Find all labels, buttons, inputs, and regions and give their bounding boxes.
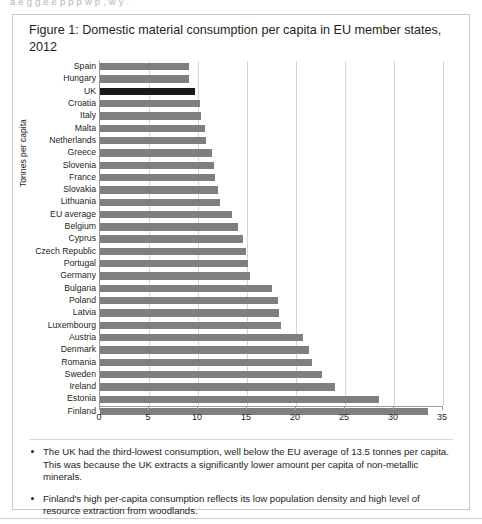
category-label: Latvia [73, 306, 96, 318]
bar-row: France [100, 172, 442, 184]
x-tick-label: 20 [290, 412, 300, 422]
category-label: Austria [69, 331, 96, 343]
category-label: Romania [61, 356, 96, 368]
bar [100, 112, 201, 119]
category-label: Croatia [68, 97, 96, 109]
bar [100, 334, 303, 341]
category-label: Malta [75, 122, 96, 134]
category-label: Bulgaria [64, 282, 96, 294]
category-label: Slovakia [63, 183, 96, 195]
cut-off-text-line: a e g g e e p p p w p , w y . [10, 0, 480, 10]
bar [100, 285, 272, 292]
bar [100, 235, 243, 242]
bar [100, 359, 312, 366]
bar-row: Malta [100, 123, 442, 135]
category-label: Portugal [64, 257, 96, 269]
bar-row: Romania [100, 357, 442, 369]
category-label: Cyprus [68, 232, 96, 244]
bar [100, 100, 200, 107]
x-tick-mark [197, 406, 198, 410]
bar [100, 346, 309, 353]
category-label: Czech Republic [35, 245, 96, 257]
x-tick-mark [442, 406, 443, 410]
bar [100, 174, 215, 181]
figure-title: Figure 1: Domestic material consumption … [29, 22, 453, 55]
bar [100, 223, 238, 230]
bar-row: Ireland [100, 381, 442, 393]
bar-row: Cyprus [100, 233, 442, 245]
bar-row: Latvia [100, 307, 442, 319]
bar [100, 162, 214, 169]
bar-row: Lithuania [100, 196, 442, 208]
category-label: Germany [60, 269, 96, 281]
bar [100, 211, 232, 218]
x-tick-label: 5 [145, 412, 150, 422]
category-label: Finland [68, 405, 97, 417]
category-label: UK [84, 85, 96, 97]
y-axis-title: Tonnes per capita [18, 119, 28, 187]
plot-area: SpainHungaryUKCroatiaItalyMaltaNetherlan… [99, 61, 442, 406]
x-tick-label: 0 [96, 412, 101, 422]
category-label: Denmark [61, 343, 96, 355]
x-tick-label: 30 [388, 412, 398, 422]
note-text: Finland's high per-capita consumption re… [43, 493, 420, 517]
bar-row: Sweden [100, 369, 442, 381]
bar [100, 272, 250, 279]
bar [100, 186, 218, 193]
bar [100, 88, 195, 95]
category-label: Ireland [69, 380, 96, 392]
bar-row: Hungary [100, 73, 442, 85]
bar [100, 199, 220, 206]
bar-row: Slovakia [100, 184, 442, 196]
bullet-icon [31, 497, 34, 500]
category-label: Greece [68, 146, 97, 158]
bar-row: Czech Republic [100, 246, 442, 258]
x-tick-mark [295, 406, 296, 410]
gridline [443, 61, 444, 406]
bar [100, 396, 379, 403]
bar-row: Spain [100, 61, 442, 73]
x-tick-label: 15 [241, 412, 251, 422]
bar-chart: Tonnes per capita SpainHungaryUKCroatiaI… [13, 59, 471, 433]
x-tick-label: 25 [339, 412, 349, 422]
bar-row: UK [100, 86, 442, 98]
bar-row: Greece [100, 147, 442, 159]
x-axis-line [99, 406, 442, 407]
x-tick-mark [148, 406, 149, 410]
figure-container: Figure 1: Domestic material consumption … [12, 14, 470, 510]
bar [100, 75, 189, 82]
bar-row: Belgium [100, 221, 442, 233]
bar [100, 248, 246, 255]
x-tick-mark [246, 406, 247, 410]
bar-row: Poland [100, 295, 442, 307]
bar-row: EU average [100, 209, 442, 221]
category-label: Slovenia [63, 159, 96, 171]
bar-row: Portugal [100, 258, 442, 270]
category-label: Poland [69, 294, 96, 306]
note-item: The UK had the third-lowest consumption,… [29, 446, 453, 484]
x-tick-mark [99, 406, 100, 410]
category-label: Netherlands [49, 134, 96, 146]
bar-row: Austria [100, 332, 442, 344]
category-label: Italy [80, 109, 96, 121]
category-label: France [69, 171, 96, 183]
bottom-rule [0, 518, 482, 519]
bar [100, 309, 279, 316]
bullet-icon [31, 450, 34, 453]
category-label: Belgium [65, 220, 96, 232]
category-label: Luxembourg [48, 319, 96, 331]
category-label: Hungary [63, 72, 96, 84]
bar [100, 260, 248, 267]
category-label: Sweden [65, 368, 96, 380]
bar [100, 137, 206, 144]
bar-row: Slovenia [100, 160, 442, 172]
bar-row: Italy [100, 110, 442, 122]
category-label: EU average [50, 208, 96, 220]
bar-row: Denmark [100, 344, 442, 356]
bar-row: Bulgaria [100, 283, 442, 295]
x-tick-mark [344, 406, 345, 410]
x-tick-label: 35 [437, 412, 447, 422]
bar [100, 149, 212, 156]
category-label: Estonia [67, 392, 96, 404]
notes-list: The UK had the third-lowest consumption,… [29, 439, 453, 524]
